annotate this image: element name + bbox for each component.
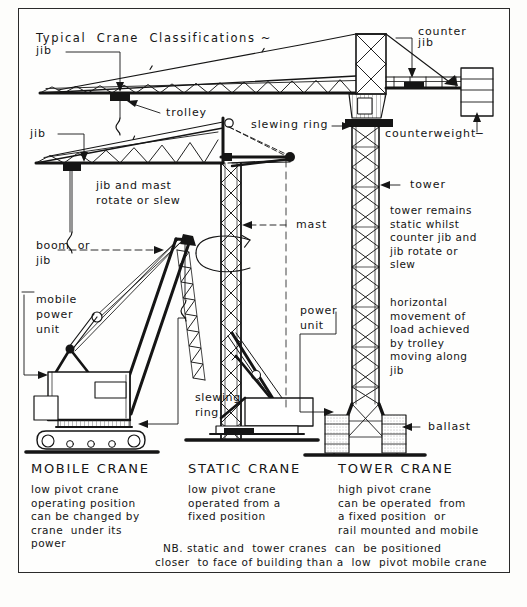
label-counter-jib: counter jib <box>418 26 467 48</box>
label-horizontal-movement: horizontal movement of load achieved by … <box>390 296 470 378</box>
tower-cab <box>349 94 386 118</box>
label-jib-second: jib <box>30 128 46 139</box>
heading-mobile-crane: MOBILE CRANE <box>31 462 150 475</box>
label-tower: tower <box>410 179 446 190</box>
label-ballast: ballast <box>428 421 471 432</box>
description-mobile-crane: low pivot crane operating position can b… <box>31 483 140 551</box>
label-tower-remains-static: tower remains static whilst counter jib … <box>390 204 477 272</box>
label-trolley: trolley <box>166 107 207 118</box>
drawing-page: Typical Crane Classifications ~ jib trol… <box>0 0 527 607</box>
static-crane-counter-arm <box>221 152 295 166</box>
slewing-ring-collar <box>345 119 393 127</box>
heading-tower-crane: TOWER CRANE <box>338 462 454 475</box>
tower-mast <box>352 127 379 404</box>
page-title: Typical Crane Classifications ~ <box>36 33 272 45</box>
label-counterweight: counterweight─ <box>385 128 484 139</box>
top-jib-trolley <box>110 93 130 135</box>
footnote-line-1: NB. static and tower cranes can be posit… <box>163 542 441 555</box>
footnote-line-2: closer to face of building than a low pi… <box>155 556 487 569</box>
heading-static-crane: STATIC CRANE <box>188 462 301 475</box>
counterweight-block <box>461 68 493 116</box>
label-slewing-ring-top: slewing ring <box>251 119 328 130</box>
label-jib-mast-rotate: jib and mast rotate or slew <box>96 178 180 208</box>
label-boom-or-jib: boom or jib <box>36 238 90 268</box>
label-mast: mast <box>296 219 327 230</box>
mobile-crane-body <box>34 372 130 420</box>
mobile-slewing-ring <box>56 420 132 427</box>
label-mobile-power-unit: mobile power unit <box>36 292 77 337</box>
label-slewing-ring-mobile: slewing ring <box>195 390 241 420</box>
label-power-unit: power unit <box>300 303 337 333</box>
crawler-tracks <box>37 431 145 449</box>
static-crane-jib <box>36 128 223 163</box>
description-tower-crane: high pivot crane can be operated from a … <box>338 483 479 537</box>
tower-head <box>356 34 386 94</box>
label-jib-top: jib <box>36 45 52 56</box>
static-crane-turntable <box>210 426 304 434</box>
description-static-crane: low pivot crane operated from a fixed po… <box>188 483 281 524</box>
